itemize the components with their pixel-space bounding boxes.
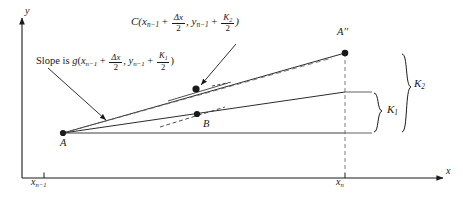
label-tick-xn: xn [336, 177, 344, 188]
point-a-double-prime [342, 50, 349, 57]
brace-k2 [402, 54, 411, 132]
label-point-a: A [60, 138, 66, 149]
label-axis-y: y [25, 6, 29, 16]
label-slope-expression: Slope is g(xn−1 + Δx2, yn−1 + K12) [36, 51, 174, 72]
label-point-c-expression: C(xn−1 + Δx2, yn−1 + K22) [131, 13, 239, 33]
label-brace-k1: K1 [387, 104, 398, 117]
tangent-segment-at-C [168, 82, 232, 101]
label-tick-xn-minus-1: xn−1 [31, 177, 47, 188]
leader-arrow-slope [48, 68, 106, 120]
label-axis-x: x [446, 166, 450, 176]
label-point-b: B [203, 119, 209, 130]
point-b [194, 111, 200, 117]
point-c [192, 85, 199, 92]
label-point-a-double-prime: A′′ [337, 27, 348, 38]
brace-k1 [374, 93, 382, 132]
point-a [60, 130, 66, 136]
label-brace-k2: K2 [414, 78, 425, 91]
brace-connector-ticks [345, 53, 400, 133]
leader-arrow-c [201, 44, 236, 85]
